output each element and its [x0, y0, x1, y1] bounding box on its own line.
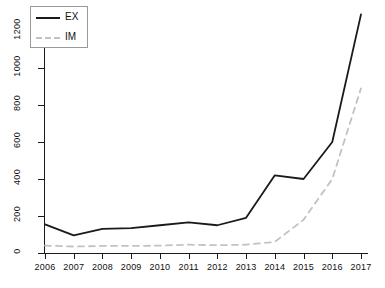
series-line-ex — [45, 14, 361, 235]
legend-item-ex: EX — [31, 7, 89, 28]
chart-legend: EX IM — [30, 6, 88, 48]
legend-item-im: IM — [31, 27, 89, 48]
chart-container: 020040060080010001200 200620072008200920… — [0, 0, 385, 288]
legend-swatch-solid-icon — [36, 17, 60, 19]
legend-swatch-dashed-icon — [36, 37, 60, 39]
legend-label-im: IM — [65, 31, 76, 42]
legend-label-ex: EX — [65, 11, 78, 22]
